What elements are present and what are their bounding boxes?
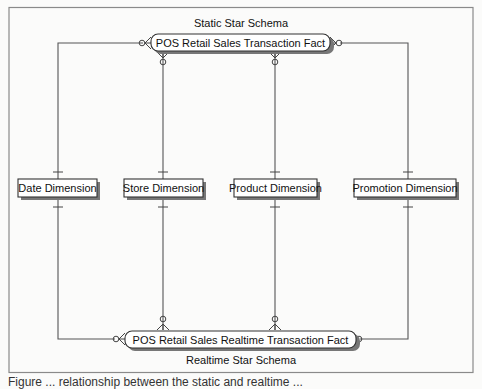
- entity-pos-retail-sales-transaction-fact[interactable]: POS Retail Sales Transaction Fact: [151, 34, 334, 54]
- rel-promotion-static: [340, 43, 408, 180]
- entity-label: Product Dimension: [229, 182, 322, 194]
- entity-label: POS Retail Sales Realtime Transaction Fa…: [133, 334, 349, 346]
- entity-date-dimension[interactable]: Date Dimension: [18, 179, 100, 200]
- rel-date-static: [58, 43, 143, 180]
- entity-product-dimension[interactable]: Product Dimension: [229, 179, 322, 200]
- entity-label: POS Retail Sales Transaction Fact: [156, 37, 325, 49]
- figure-caption-cutoff: Figure ... relationship between the stat…: [8, 375, 303, 389]
- entity-promotion-dimension[interactable]: Promotion Dimension: [352, 179, 459, 200]
- entity-pos-retail-sales-realtime-transaction-fact[interactable]: POS Retail Sales Realtime Transaction Fa…: [125, 331, 360, 351]
- rel-date-realtime: [58, 200, 115, 339]
- realtime-star-schema-label: Realtime Star Schema: [186, 354, 297, 366]
- entity-label: Promotion Dimension: [352, 182, 457, 194]
- entity-label: Date Dimension: [18, 182, 96, 194]
- entity-store-dimension[interactable]: Store Dimension: [123, 179, 206, 200]
- static-star-schema-label: Static Star Schema: [194, 17, 289, 29]
- rel-promotion-realtime: [360, 200, 408, 339]
- entity-label: Store Dimension: [123, 182, 204, 194]
